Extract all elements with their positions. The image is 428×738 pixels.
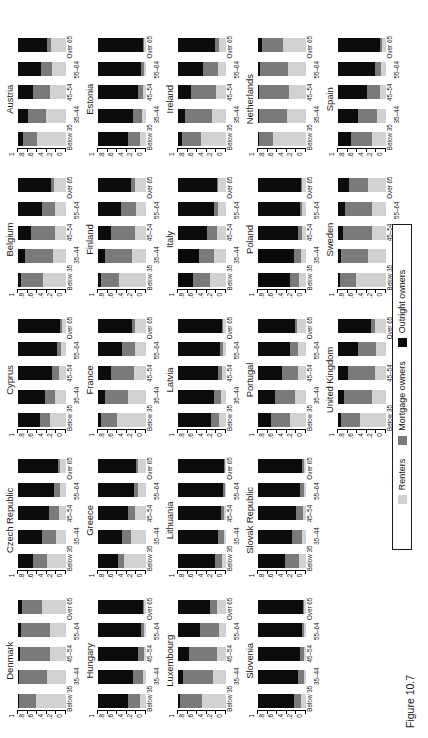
- stacked-bar: [258, 554, 306, 568]
- y-axis-tick-label: .4: [356, 433, 363, 449]
- bar-segment-outright: [18, 390, 45, 404]
- y-axis-tick: [295, 289, 296, 293]
- stacked-bar: [178, 647, 226, 661]
- bar-segment-outright: [98, 623, 141, 637]
- bar-segment-outright: [258, 178, 301, 192]
- y-axis-tick-label: 0: [216, 714, 223, 730]
- bar-segment-mortgage: [101, 413, 117, 427]
- bar-segment-outright: [98, 483, 134, 497]
- plot-area: 0.2.4.6.81: [258, 176, 306, 288]
- bar-segment-outright: [98, 366, 111, 380]
- y-axis-tick-label: .4: [36, 714, 43, 730]
- bar-group: [178, 457, 226, 569]
- y-axis-tick-label: .8: [97, 152, 104, 168]
- bar-segment-outright: [178, 413, 211, 427]
- y-axis-line: [258, 710, 306, 711]
- bar-segment-mortgage: [52, 366, 60, 380]
- panel-greece: Greece0.2.4.6.81Below 3535–4445–5455–64O…: [84, 451, 164, 589]
- x-axis-label: Below 35: [226, 124, 233, 150]
- stacked-bar: [258, 132, 306, 146]
- y-axis-tick: [187, 429, 188, 433]
- bar-group: [98, 36, 146, 148]
- stacked-bar: [178, 694, 226, 708]
- x-axis-label: Below 35: [306, 405, 313, 431]
- y-axis-tick: [17, 570, 18, 574]
- bar-group: [98, 457, 146, 569]
- bar-segment-mortgage: [271, 413, 290, 427]
- bar-segment-outright: [98, 62, 141, 76]
- x-axis-label: Below 35: [66, 265, 73, 291]
- y-axis-tick: [366, 148, 367, 152]
- bar-segment-outright: [338, 109, 358, 123]
- x-axis-label: 35–44: [313, 668, 320, 686]
- x-axis-labels: Below 3535–4445–5455–64Over 65: [306, 36, 324, 148]
- x-axis-labels: Below 3535–4445–5455–64Over 65: [306, 457, 324, 569]
- y-axis-tick: [286, 429, 287, 433]
- stacked-bar: [18, 62, 66, 76]
- x-axis-label: 35–44: [153, 106, 160, 124]
- legend-label: Renters: [397, 459, 407, 491]
- bar-segment-mortgage: [199, 249, 214, 263]
- y-axis-tick-label: .2: [206, 433, 213, 449]
- bar-segment-renters: [42, 600, 66, 614]
- y-axis-tick-label: 0: [216, 152, 223, 168]
- y-axis-tick-label: .2: [206, 152, 213, 168]
- x-axis-label: 45–54: [146, 505, 153, 523]
- x-axis-label: 45–54: [66, 505, 73, 523]
- y-axis-tick-label: .4: [36, 433, 43, 449]
- bar-segment-renters: [128, 390, 146, 404]
- bar-segment-renters: [372, 132, 386, 146]
- y-axis-tick: [276, 289, 277, 293]
- stacked-bar: [18, 413, 66, 427]
- x-axis-labels: Below 3535–4445–5455–64Over 65: [226, 176, 244, 288]
- y-axis-tick-label: .2: [126, 433, 133, 449]
- stacked-bar: [18, 85, 66, 99]
- bar-segment-mortgage: [180, 694, 202, 708]
- bar-segment-mortgage: [349, 178, 368, 192]
- y-axis-tick-label: .2: [286, 293, 293, 309]
- y-axis-tick-label: .4: [36, 293, 43, 309]
- stacked-bar: [338, 319, 386, 333]
- bar-segment-renters: [375, 366, 386, 380]
- x-axis-label: 35–44: [233, 668, 240, 686]
- y-axis-tick: [257, 148, 258, 152]
- bar-group: [98, 176, 146, 288]
- y-axis-line: [258, 148, 306, 149]
- stacked-bar: [338, 85, 386, 99]
- x-axis-label: Over 65: [226, 598, 233, 620]
- bar-segment-renters: [201, 132, 226, 146]
- bar-segment-outright: [258, 600, 303, 614]
- y-axis-tick-label: .6: [267, 574, 274, 590]
- x-axis-label: 35–44: [313, 387, 320, 405]
- y-axis-tick-label: 0: [56, 714, 63, 730]
- stacked-bar: [178, 623, 226, 637]
- y-axis-tick-label: .2: [206, 714, 213, 730]
- bar-segment-renters: [47, 670, 66, 684]
- x-axis-label: Over 65: [226, 457, 233, 479]
- panel-latvia: Latvia0.2.4.6.81Below 3535–4445–5455–64O…: [164, 311, 244, 449]
- y-axis-tick: [97, 710, 98, 714]
- y-axis-tick-label: .4: [196, 574, 203, 590]
- stacked-bar: [98, 226, 146, 240]
- bar-segment-mortgage: [210, 600, 218, 614]
- bar-segment-outright: [338, 319, 371, 333]
- stacked-bar: [258, 459, 306, 473]
- y-axis-line: [258, 429, 306, 430]
- y-axis-tick-label: .2: [46, 714, 53, 730]
- bar-segment-outright: [18, 483, 54, 497]
- y-axis-tick: [257, 710, 258, 714]
- bar-segment-renters: [124, 554, 146, 568]
- y-axis-tick: [116, 570, 117, 574]
- bar-group: [18, 457, 66, 569]
- y-axis-tick: [267, 429, 268, 433]
- y-axis-line: [338, 289, 386, 290]
- y-axis-tick-label: .8: [17, 293, 24, 309]
- stacked-bar: [258, 600, 306, 614]
- y-axis-tick: [36, 429, 37, 433]
- x-axis-label: 55–64: [313, 61, 320, 79]
- y-axis-tick: [337, 289, 338, 293]
- bar-segment-renters: [135, 319, 146, 333]
- bar-segment-renters: [283, 38, 306, 52]
- stacked-bar: [18, 554, 66, 568]
- stacked-bar: [178, 202, 226, 216]
